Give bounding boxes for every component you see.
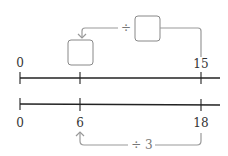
top-number-line: [20, 72, 220, 84]
top-label-0: 0: [16, 56, 24, 70]
bottom-label-18: 18: [193, 116, 208, 130]
top-divide-symbol: ÷: [121, 21, 131, 35]
answer-box-divisor[interactable]: [135, 16, 160, 41]
number-line-diagram: 0 15 ÷ 0 6 18 ÷ 3: [0, 0, 228, 156]
bottom-label-0: 0: [16, 116, 24, 130]
answer-box-top-tick[interactable]: [68, 40, 93, 65]
bottom-number-line: [20, 98, 220, 111]
bottom-label-6: 6: [76, 116, 84, 130]
top-label-15: 15: [193, 57, 208, 71]
bottom-divide-label: ÷ 3: [131, 138, 153, 152]
